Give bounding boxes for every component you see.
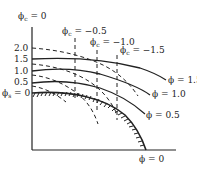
dashed-curve-2-0 [32,48,138,96]
label-phi-0: ϕ = 0 [139,154,164,164]
label-phi-1-5: ϕ = 1.5 [168,75,197,85]
y-tick-label-1-5: 1.5 [14,54,29,64]
phase-diagram: ϕc = 0 2.0 1.5 1.0 0.5 ϕs = 0 ϕc = −0.5 … [0,0,197,173]
dashed-curve-1-5 [32,64,116,112]
label-phi-1-0: ϕ = 1.0 [152,89,186,99]
dashed-curve-0-5 [32,86,66,102]
y-tick-label-0-5: 0.5 [14,77,29,87]
label-phi-0-5: ϕ = 0.5 [146,110,180,120]
y-tick-label-1-0: 1.0 [14,66,29,76]
label-phic-minus-1-0: ϕc = −1.0 [90,37,135,48]
y-axis-top-label: ϕc = 0 [18,11,47,22]
y-baseline-label: ϕs = 0 [2,88,30,99]
y-tick-label-2-0: 2.0 [14,43,29,53]
label-phic-minus-0-5: ϕc = −0.5 [62,26,107,37]
